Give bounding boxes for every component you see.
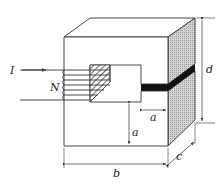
core-front-face <box>64 37 168 146</box>
depth-label: c <box>176 150 182 163</box>
leg-height-label: a <box>132 126 139 139</box>
width-label: b <box>113 167 120 180</box>
magnetic-core-diagram: I N a a b c d <box>0 0 220 187</box>
height-label: d <box>206 63 213 76</box>
turns-label: N <box>49 81 60 94</box>
gap-width-label: a <box>150 111 157 124</box>
current-label: I <box>9 64 15 77</box>
window-inner-face-hatched <box>90 65 110 102</box>
